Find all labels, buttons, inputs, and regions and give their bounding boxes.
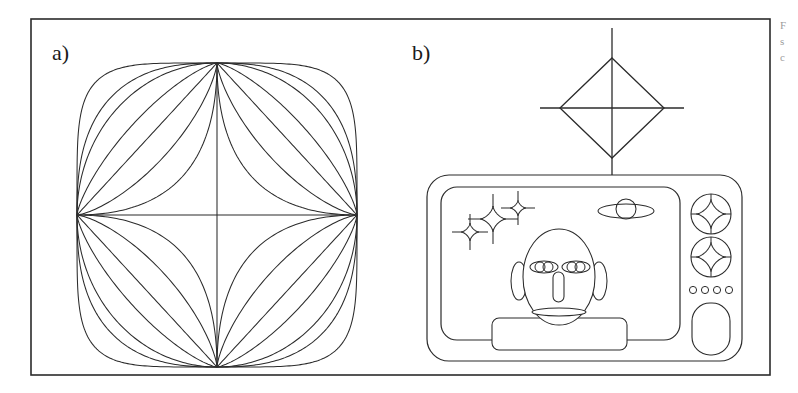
tuner-knobs xyxy=(691,194,731,277)
star-sparkles xyxy=(452,191,535,250)
panel-a-superellipse-diagram xyxy=(77,63,357,367)
indicator-dot-4 xyxy=(725,286,732,293)
panel-b-television-diagram xyxy=(427,28,742,361)
alien-eye-left xyxy=(530,261,558,273)
planet-ring xyxy=(598,204,654,218)
ringed-planet xyxy=(598,199,654,219)
panel-a-label: a) xyxy=(52,40,69,65)
indicator-dot-3 xyxy=(713,286,720,293)
indicator-dot-2 xyxy=(701,286,708,293)
figure-border xyxy=(31,19,770,375)
caption-line-1: F xyxy=(780,18,798,34)
indicator-dots xyxy=(689,286,732,293)
sparkle-small-right xyxy=(510,200,526,216)
indicator-dot-1 xyxy=(689,286,696,293)
alien-mouth xyxy=(532,308,586,316)
alien-nose xyxy=(553,272,564,302)
sparkle-large-center xyxy=(480,206,506,232)
television-control-panel xyxy=(689,194,732,355)
antenna xyxy=(540,28,684,175)
alien-eye-right xyxy=(562,261,590,273)
caption-line-2: s xyxy=(780,34,798,50)
alien-figure xyxy=(492,229,627,350)
panel-b-label: b) xyxy=(412,40,430,65)
caption-overflow-text: F s c xyxy=(780,18,798,66)
figure-canvas: a) xyxy=(0,0,798,393)
planet-core xyxy=(616,199,636,219)
figure-root: a) xyxy=(0,0,798,393)
superellipse-curve-set xyxy=(77,63,357,367)
screen-contents xyxy=(452,191,654,350)
caption-line-3: c xyxy=(780,50,798,66)
sparkle-small-left xyxy=(461,223,479,241)
speaker-button[interactable] xyxy=(692,303,730,355)
